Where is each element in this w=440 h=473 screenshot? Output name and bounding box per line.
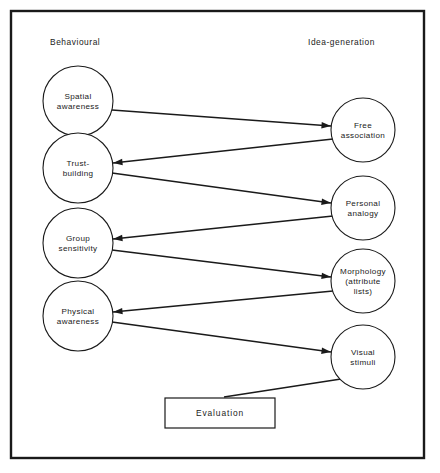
diagram-canvas: SpatialawarenessTrust-buildingGroupsensi…: [0, 0, 440, 473]
node-label-line: Free: [354, 121, 372, 130]
node-physical-awareness[interactable]: Physicalawareness: [43, 281, 113, 351]
edge-morphology-to-physical: [113, 291, 333, 314]
node-label-line: awareness: [57, 317, 99, 326]
edge-line: [113, 216, 333, 239]
node-label-line: Spatial: [64, 92, 91, 101]
node-circle-behavioural: [43, 133, 113, 203]
node-label-evaluation: Evaluation: [196, 408, 244, 418]
edge-line: [113, 139, 333, 163]
node-circle-behavioural: [43, 208, 113, 278]
arrow-head-icon: [321, 273, 331, 279]
arrow-head-icon: [113, 235, 123, 241]
node-label-line: Visual: [351, 348, 375, 357]
node-circle-behavioural: [43, 281, 113, 351]
node-visual-stimuli[interactable]: Visualstimuli: [331, 325, 395, 389]
arrow-head-icon: [113, 308, 123, 314]
node-morphology[interactable]: Morphology(attributelists): [331, 249, 395, 313]
node-label-line: association: [341, 131, 385, 140]
arrow-head-icon: [321, 348, 331, 354]
node-label-line: sensitivity: [59, 244, 99, 253]
diagram-svg: SpatialawarenessTrust-buildingGroupsensi…: [0, 0, 440, 473]
node-trust-building[interactable]: Trust-building: [43, 133, 113, 203]
edge-group-to-morphology: [112, 250, 331, 279]
arrow-head-icon: [113, 159, 123, 165]
node-label-line: Physical: [62, 307, 95, 316]
node-label-line: (attribute: [345, 277, 381, 286]
edge-line: [113, 291, 333, 312]
node-evaluation[interactable]: Evaluation: [165, 398, 275, 428]
node-label-line: stimuli: [350, 358, 375, 367]
edge-evaluation-to-visual: [224, 379, 341, 397]
node-circle-idea-generation: [331, 325, 395, 389]
node-label-line: Personal: [346, 199, 381, 208]
node-label-line: building: [63, 169, 94, 178]
edge-free-to-trust: [113, 139, 333, 165]
edge-line: [112, 250, 331, 277]
node-free-association[interactable]: Freeassociation: [331, 98, 395, 162]
node-label-line: analogy: [348, 209, 379, 218]
node-circle-behavioural: [43, 66, 113, 136]
arrow-head-icon: [321, 199, 331, 205]
column-header-behavioural: Behavioural: [50, 37, 100, 47]
edge-line: [112, 322, 331, 352]
column-header-idea-generation: Idea-generation: [308, 37, 375, 47]
node-label-line: Morphology: [340, 267, 386, 276]
edges-layer: [112, 110, 341, 397]
node-label-line: lists): [354, 287, 373, 296]
node-label-line: Trust-: [67, 159, 90, 168]
node-label-line: Group: [66, 234, 90, 243]
edge-spatial-to-free: [112, 110, 331, 129]
edge-line: [112, 110, 331, 126]
edge-line: [112, 173, 331, 203]
edge-personal-to-group: [113, 216, 333, 241]
node-label-line: awareness: [57, 102, 99, 111]
node-spatial-awareness[interactable]: Spatialawareness: [43, 66, 113, 136]
node-personal-analogy[interactable]: Personalanalogy: [331, 176, 395, 240]
node-group-sensitivity[interactable]: Groupsensitivity: [43, 208, 113, 278]
node-circle-idea-generation: [331, 176, 395, 240]
edge-line: [224, 379, 341, 397]
edge-physical-to-visual: [112, 322, 331, 354]
nodes-layer: SpatialawarenessTrust-buildingGroupsensi…: [43, 66, 395, 428]
edge-trust-to-personal: [112, 173, 331, 205]
node-circle-idea-generation: [331, 98, 395, 162]
